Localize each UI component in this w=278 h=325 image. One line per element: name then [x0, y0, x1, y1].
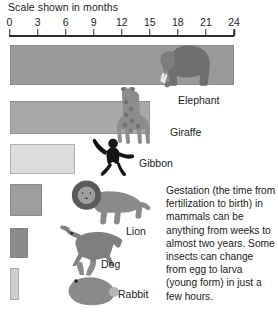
bar-dog: [10, 228, 29, 258]
gestation-period-infographic: Scale shown in months 03691215182124 Ele…: [0, 0, 278, 325]
gibbon-icon: [92, 135, 136, 179]
lion-icon: [66, 178, 152, 228]
bar-label-elephant: Elephant: [178, 94, 219, 106]
bar-gibbon: [10, 144, 75, 174]
bar-lion: [10, 184, 43, 216]
dog-icon: [58, 222, 142, 266]
bar-rabbit: [10, 268, 19, 300]
bar-label-gibbon: Gibbon: [139, 157, 173, 169]
gestation-caption: Gestation (the time from fertilization t…: [166, 184, 276, 303]
bar-label-giraffe: Giraffe: [170, 126, 201, 138]
elephant-icon: [150, 40, 226, 92]
rabbit-icon: [56, 262, 122, 306]
bar-label-rabbit: Rabbit: [118, 288, 148, 300]
